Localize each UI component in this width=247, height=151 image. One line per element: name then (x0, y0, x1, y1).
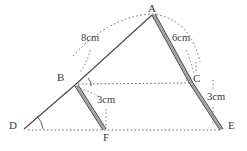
measure-label-ab: 8cm (81, 33, 99, 44)
leader-6cm (186, 50, 194, 74)
vertex-label-d: D (9, 120, 17, 131)
vertex-label-f: F (103, 132, 109, 143)
vertex-label-e: E (228, 120, 235, 131)
angle-arc-d (37, 116, 43, 129)
segment-a-b (75, 15, 152, 85)
vertex-label-c: C (193, 73, 200, 84)
measure-label-ac: 6cm (172, 33, 190, 44)
measure-label-bf: 3cm (97, 95, 115, 106)
segment-b-f (75, 85, 106, 130)
vertex-label-a: A (148, 3, 156, 14)
vertex-label-b: B (57, 72, 64, 83)
angle-arc-b (88, 78, 91, 86)
leader-8cm (80, 50, 90, 72)
segment-b-c (78, 83, 190, 84)
segment-a-c (152, 14, 193, 84)
measure-label-ce: 3cm (207, 92, 225, 103)
figure-canvas (0, 0, 247, 151)
segment-b-d (24, 85, 75, 129)
geometry-figure: A B C D E F 8cm 6cm 3cm 3cm (0, 0, 247, 151)
